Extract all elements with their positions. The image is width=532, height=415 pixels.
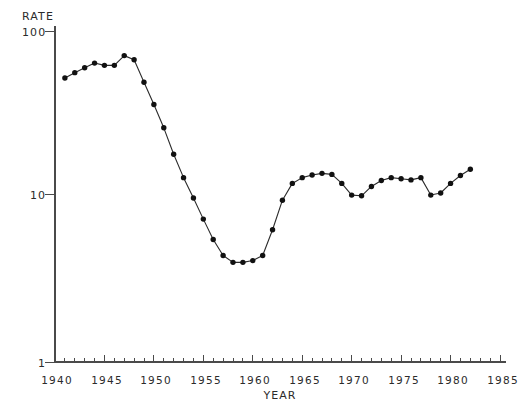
x-tick-label-1950: 1950 [140, 374, 172, 386]
data-point [191, 195, 196, 200]
data-point [260, 253, 265, 258]
x-tick-label-1955: 1955 [190, 374, 222, 386]
data-point [171, 152, 176, 157]
data-point [211, 237, 216, 242]
series-points [62, 53, 473, 265]
series-line [65, 56, 470, 263]
data-point [319, 171, 324, 176]
data-point [141, 80, 146, 85]
data-point [339, 181, 344, 186]
y-tick-label-100: 100 [22, 26, 46, 39]
axis-labels: RATE 100 10 1 1940 1945 1950 1955 1960 1… [22, 10, 519, 402]
data-point [220, 253, 225, 258]
data-point [72, 70, 77, 75]
figure-caption [0, 403, 532, 415]
data-point [408, 177, 413, 182]
data-point [201, 216, 206, 221]
x-tick-label-1965: 1965 [289, 374, 321, 386]
data-point [270, 227, 275, 232]
y-tick-label-1: 1 [38, 357, 46, 370]
x-tick-label-1980: 1980 [437, 374, 469, 386]
data-point [379, 178, 384, 183]
data-point [369, 184, 374, 189]
data-point [240, 260, 245, 265]
data-point [122, 53, 127, 58]
data-point [300, 175, 305, 180]
data-point [92, 60, 97, 65]
data-point [428, 192, 433, 197]
series-group [62, 53, 473, 265]
data-point [418, 175, 423, 180]
data-point [438, 190, 443, 195]
line-chart: RATE 100 10 1 1940 1945 1950 1955 1960 1… [0, 0, 532, 415]
data-point [161, 125, 166, 130]
data-point [329, 172, 334, 177]
x-tick-label-1970: 1970 [338, 374, 370, 386]
data-point [309, 172, 314, 177]
data-point [280, 197, 285, 202]
figure-container: RATE 100 10 1 1940 1945 1950 1955 1960 1… [0, 0, 532, 415]
x-tick-marks [55, 355, 500, 362]
data-point [62, 75, 67, 80]
data-point [102, 63, 107, 68]
data-point [82, 65, 87, 70]
y-tick-label-10: 10 [30, 189, 46, 202]
data-point [359, 193, 364, 198]
data-point [112, 63, 117, 68]
data-point [181, 175, 186, 180]
x-tick-label-1945: 1945 [91, 374, 123, 386]
x-tick-label-1985: 1985 [487, 374, 519, 386]
x-tick-label-1960: 1960 [239, 374, 271, 386]
data-point [131, 57, 136, 62]
x-tick-label-1940: 1940 [41, 374, 73, 386]
y-tick-marks [45, 31, 55, 362]
data-point [151, 102, 156, 107]
data-point [349, 192, 354, 197]
x-tick-label-1975: 1975 [388, 374, 420, 386]
data-point [250, 258, 255, 263]
y-axis-label: RATE [22, 10, 54, 23]
data-point [398, 176, 403, 181]
data-point [230, 260, 235, 265]
data-point [290, 181, 295, 186]
data-point [458, 173, 463, 178]
data-point [448, 181, 453, 186]
x-axis-label: YEAR [262, 389, 296, 402]
data-point [389, 175, 394, 180]
data-point [468, 167, 473, 172]
